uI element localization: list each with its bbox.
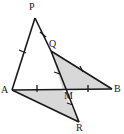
vertex-label-Q: Q xyxy=(49,39,56,49)
geometry-canvas xyxy=(0,0,124,134)
vertex-label-B: B xyxy=(114,84,121,94)
vertex-label-R: R xyxy=(76,123,83,133)
vertex-label-M: M xyxy=(64,91,73,101)
vertex-label-A: A xyxy=(1,85,8,95)
segment-AB xyxy=(12,89,112,90)
geometry-figure: P Q A B M R xyxy=(0,0,124,134)
vertex-label-P: P xyxy=(29,2,35,12)
segment-AP xyxy=(12,18,35,90)
